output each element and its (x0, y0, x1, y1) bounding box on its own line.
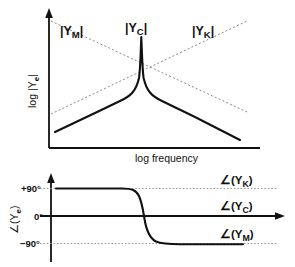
mobility-magnitude-curve (55, 37, 240, 140)
phase-panel: +90° 0° −90° ∠(Ye) ∠(YK) ∠(YC) ∠(YM) (8, 173, 285, 262)
phase-y-axis-label: ∠(Ye) (8, 206, 23, 234)
label-damper-phase: ∠(YC) (220, 200, 253, 215)
label-stiffness-magnitude: |YK| (192, 24, 214, 40)
figure-svg: |YM| |YC| |YK| log |Ye| log frequency (0, 0, 295, 267)
magnitude-x-axis-label: log frequency (135, 152, 199, 164)
label-stiffness-phase: ∠(YK) (220, 174, 253, 189)
magnitude-panel: |YM| |YC| |YK| log |Ye| log frequency (26, 8, 260, 164)
phase-y-axis-arrowhead (47, 173, 55, 183)
phase-tick-minus90: −90° (20, 238, 40, 249)
label-damper-magnitude: |YC| (125, 21, 147, 37)
magnitude-y-axis (45, 8, 53, 148)
figure-container: |YM| |YC| |YK| log |Ye| log frequency (0, 0, 295, 267)
phase-x-axis-arrowhead (275, 212, 285, 220)
label-mass-magnitude: |YM| (60, 24, 83, 40)
phase-y-axis (47, 173, 55, 262)
phase-tick-zero: 0° (34, 211, 43, 222)
magnitude-y-axis-arrowhead (45, 8, 53, 18)
magnitude-y-axis-label: log |Ye| (26, 74, 41, 108)
label-mass-phase: ∠(YM) (220, 228, 254, 243)
phase-tick-plus90: +90° (21, 183, 41, 194)
